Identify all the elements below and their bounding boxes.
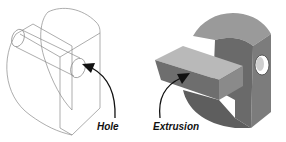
extrusion-callout-label: Extrusion bbox=[153, 121, 199, 132]
wireframe-model-drawing bbox=[0, 0, 143, 142]
wireframe-model-figure bbox=[0, 0, 143, 142]
hole-callout-label: Hole bbox=[97, 121, 119, 132]
